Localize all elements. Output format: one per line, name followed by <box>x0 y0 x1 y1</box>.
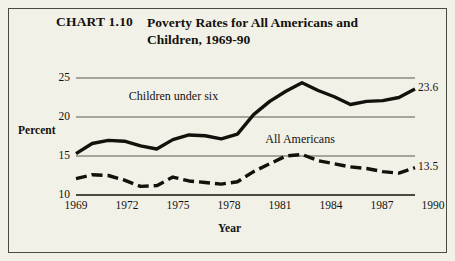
series-line-children-under-six <box>76 83 415 154</box>
gridlines <box>76 78 415 195</box>
series-line-all-americans <box>76 154 415 186</box>
chart-figure-page: CHART 1.10 Poverty Rates for All America… <box>0 0 455 261</box>
series-paths <box>76 83 415 187</box>
plot-area: Percent 25 20 15 10 1969 1972 1975 1978 … <box>0 0 455 261</box>
line-chart-canvas <box>0 0 455 261</box>
